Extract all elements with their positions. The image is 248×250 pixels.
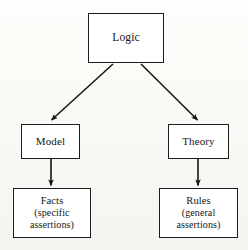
node-facts-label-0: Facts [41,195,64,207]
node-rules-label-2: assertions) [177,219,221,231]
node-facts-label-2: assertions) [30,219,74,231]
node-rules-label-1: (general [182,207,216,219]
node-theory-label-0: Theory [182,135,214,148]
node-facts: Facts (specific assertions) [13,188,91,238]
node-rules-label-0: Rules [186,195,210,207]
edge-logic-to-theory [141,64,198,120]
node-theory: Theory [168,124,229,159]
diagram-canvas: Logic Model Theory Facts (specific asser… [0,0,248,250]
node-facts-label-1: (specific [34,207,69,219]
node-logic-label-0: Logic [112,31,139,45]
edge-logic-to-model [52,64,114,120]
node-model: Model [21,124,80,159]
node-model-label-0: Model [36,135,65,148]
node-rules: Rules (general assertions) [159,188,238,238]
node-logic: Logic [88,13,164,63]
